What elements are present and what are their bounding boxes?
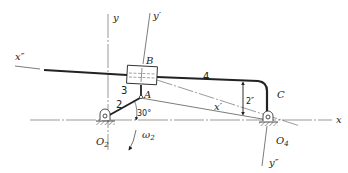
label-o2: O2: [96, 136, 109, 149]
label-c: C: [277, 89, 285, 100]
label-y-prime: y′: [152, 10, 162, 21]
x-prime-axis: [157, 80, 300, 126]
label-angle: 30°: [137, 109, 151, 118]
label-y: y: [112, 12, 119, 23]
label-a: A: [143, 89, 151, 100]
x-double-prime-axis: [15, 66, 40, 69]
joint-a: [139, 95, 142, 98]
label-y-double-prime: y″: [268, 157, 279, 168]
omega-arrow: [129, 130, 136, 150]
label-link-4: 4: [203, 71, 209, 82]
label-o4: O4: [276, 135, 289, 148]
label-x: x: [336, 114, 342, 125]
ground-pivot-o2: [96, 109, 115, 125]
y-double-prime-axis: [262, 126, 267, 166]
label-x-double-prime: x″: [15, 51, 25, 62]
label-link-2: 2: [116, 99, 122, 110]
label-link-3: 3: [121, 85, 127, 96]
slider-block-b: [127, 65, 158, 85]
label-b: B: [145, 55, 153, 66]
label-x-prime: x′: [214, 101, 223, 112]
label-offset: 2″: [246, 97, 254, 106]
ground-pivot-o4: [259, 111, 278, 126]
mechanism-diagram: y y′ x″ x x′ y″ B A C O2 O4 4 3 2 30° 2″…: [0, 0, 348, 173]
label-omega: ω2: [142, 129, 155, 142]
